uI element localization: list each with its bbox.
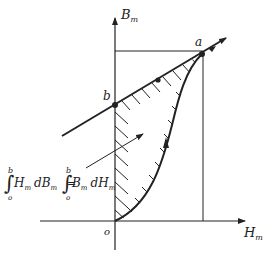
origin-label: o	[104, 226, 110, 237]
b-axis-label: Bm	[120, 7, 139, 24]
equation: b ∫ o HmdBm = b ∫ o BmdHm	[4, 166, 116, 202]
point-a	[199, 51, 205, 57]
point-b-label: b	[103, 89, 111, 103]
hatched-area	[115, 59, 200, 222]
svg-text:∫: ∫	[62, 171, 72, 195]
h-axis-label: Hm	[243, 225, 263, 242]
point-a-label: a	[195, 35, 202, 49]
point-mid	[155, 77, 160, 82]
svg-text:∫: ∫	[4, 171, 14, 195]
point-b	[112, 102, 118, 108]
svg-text:o: o	[66, 194, 70, 202]
svg-text:HmdBm: HmdBm	[13, 176, 58, 192]
svg-text:o: o	[8, 194, 12, 202]
svg-text:BmdHm: BmdHm	[71, 176, 116, 192]
diagram-canvas: Bm Hm o a b b ∫ o HmdBm = b ∫ o BmdHm	[0, 0, 265, 259]
